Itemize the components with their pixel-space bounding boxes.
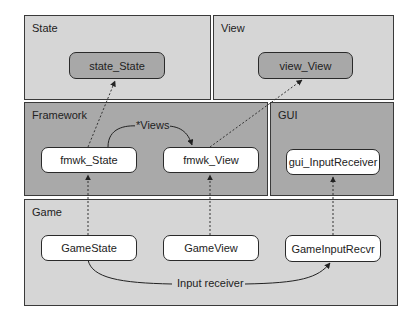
game-panel-label: Game — [32, 206, 62, 218]
fmwk-view-node: fmwk_View — [163, 147, 259, 173]
input-receiver-edge-label: Input receiver — [176, 277, 245, 289]
game-state-node: GameState — [41, 235, 137, 261]
view-view-node: view_View — [258, 52, 353, 79]
framework-panel-label: Framework — [32, 109, 87, 121]
gui-panel-label: GUI — [278, 109, 298, 121]
gui-input-receiver-node: gui_InputReceiver — [286, 149, 380, 175]
view-panel-label: View — [221, 22, 245, 34]
state-state-node: state_State — [69, 52, 165, 79]
game-view-node: GameView — [163, 235, 259, 261]
fmwk-state-node: fmwk_State — [41, 147, 137, 173]
views-edge-label: *Views — [135, 119, 170, 131]
game-input-recvr-node: GameInputRecvr — [285, 235, 381, 262]
state-panel-label: State — [32, 22, 58, 34]
